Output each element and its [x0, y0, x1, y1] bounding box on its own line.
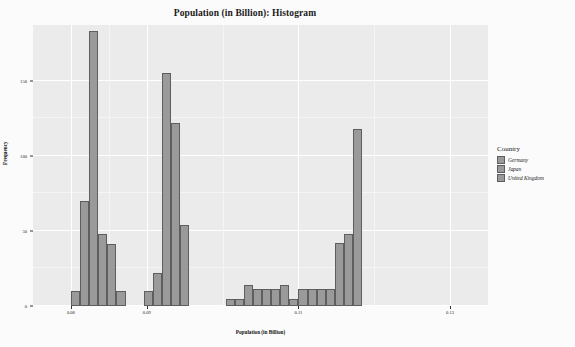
x-axis-tick-mark — [71, 306, 72, 309]
x-axis-tick-mark — [147, 306, 148, 309]
legend-item-label: Germany — [508, 157, 528, 163]
histogram-bar — [71, 291, 80, 306]
histogram-bar — [80, 201, 89, 306]
y-axis-tick-mark — [30, 155, 33, 156]
y-axis-tick-label: 0 — [5, 304, 27, 309]
histogram-bar — [253, 289, 262, 306]
x-axis-tick-label: 0.13 — [430, 310, 470, 315]
x-axis-tick-label: 0.09 — [127, 310, 167, 315]
histogram-bar — [226, 299, 235, 307]
histogram-bar — [162, 73, 171, 306]
x-axis-title: Population (in Billion) — [33, 329, 488, 335]
histogram-bar — [344, 234, 353, 306]
histogram-bar — [262, 289, 271, 306]
x-axis-tick-label: 0.08 — [51, 310, 91, 315]
histogram-bar — [153, 273, 162, 306]
histogram-bar — [98, 234, 107, 306]
histogram-chart: Population (in Billion): Histogram Frequ… — [0, 0, 575, 347]
histogram-bar — [308, 289, 317, 306]
legend-items: GermanyJapanUnited Kingdom — [497, 155, 573, 182]
histogram-bar — [116, 291, 125, 306]
histogram-bar — [298, 289, 307, 306]
histogram-bars — [33, 25, 488, 306]
legend-item-label: Japan — [508, 166, 521, 172]
legend: Country GermanyJapanUnited Kingdom — [497, 145, 573, 182]
histogram-bar — [144, 291, 153, 306]
histogram-bar — [326, 289, 335, 306]
legend-swatch — [497, 174, 505, 182]
legend-item[interactable]: Japan — [497, 164, 573, 173]
x-axis-tick-label: 0.11 — [278, 310, 318, 315]
x-axis-tick-mark — [298, 306, 299, 309]
y-axis-tick-label: 100 — [5, 153, 27, 158]
histogram-bar — [171, 123, 180, 306]
x-axis-tick-mark — [450, 306, 451, 309]
chart-title: Population (in Billion): Histogram — [0, 8, 490, 18]
y-axis-tick-mark — [30, 80, 33, 81]
histogram-bar — [271, 289, 280, 306]
y-axis-tick-label: 150 — [5, 78, 27, 83]
histogram-bar — [335, 243, 344, 306]
legend-item[interactable]: Germany — [497, 155, 573, 164]
histogram-bar — [244, 285, 253, 306]
y-axis-tick-mark — [30, 230, 33, 231]
legend-item[interactable]: United Kingdom — [497, 173, 573, 182]
histogram-bar — [180, 225, 189, 306]
histogram-bar — [89, 31, 98, 306]
histogram-bar — [353, 129, 362, 306]
histogram-bar — [280, 285, 289, 306]
histogram-bar — [317, 289, 326, 306]
histogram-bar — [289, 299, 298, 307]
legend-item-label: United Kingdom — [508, 175, 544, 181]
plot-area — [33, 25, 488, 306]
y-axis-tick-label: 50 — [5, 228, 27, 233]
legend-swatch — [497, 156, 505, 164]
legend-title: Country — [497, 145, 573, 153]
legend-swatch — [497, 165, 505, 173]
histogram-bar — [107, 244, 116, 306]
histogram-bar — [235, 299, 244, 307]
y-axis-tick-mark — [30, 306, 33, 307]
